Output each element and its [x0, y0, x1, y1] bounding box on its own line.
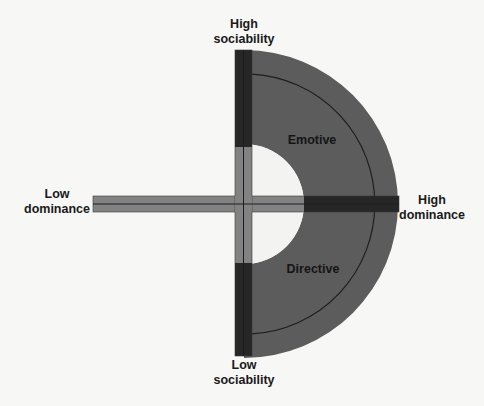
label-low-dominance: Low dominance: [24, 187, 90, 217]
label-high-sociability-line2: sociability: [213, 32, 274, 47]
label-high-dominance-line2: dominance: [399, 208, 465, 223]
label-high-dominance-line1: High: [399, 193, 465, 208]
label-high-dominance: High dominance: [399, 193, 465, 223]
label-low-dominance-line1: Low: [24, 187, 90, 202]
label-low-sociability-line2: sociability: [213, 373, 274, 388]
label-low-sociability: Low sociability: [213, 358, 274, 388]
label-low-sociability-line1: Low: [213, 358, 274, 373]
label-low-dominance-line2: dominance: [24, 202, 90, 217]
region-label-emotive: Emotive: [288, 133, 337, 147]
label-high-sociability: High sociability: [213, 17, 274, 47]
region-label-directive: Directive: [287, 262, 340, 276]
label-high-sociability-line1: High: [213, 17, 274, 32]
